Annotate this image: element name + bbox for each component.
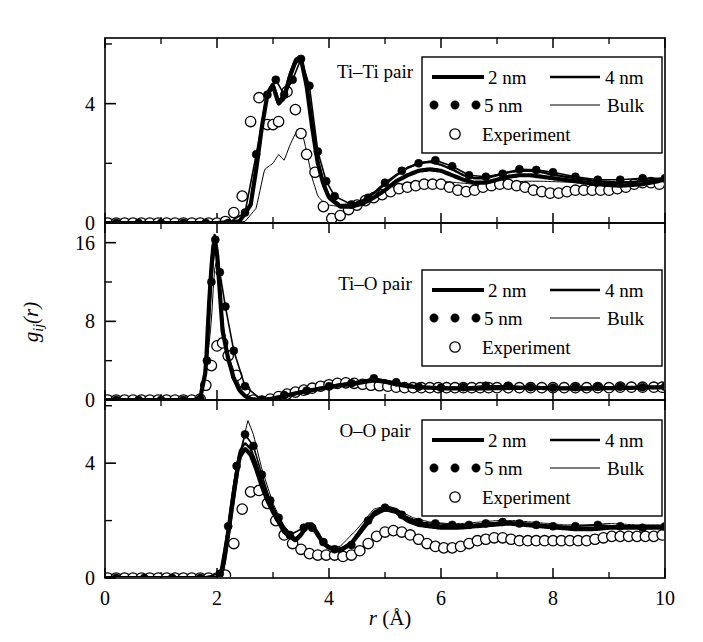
series-5nm-marker: [249, 442, 257, 450]
series-5nm-marker: [571, 173, 579, 181]
legend-box: 2 nm4 nm5 nmBulkExperiment: [422, 420, 662, 516]
series-5nm-marker: [216, 570, 224, 578]
series-5nm-marker: [241, 382, 249, 390]
ytick-label: 0: [85, 389, 95, 411]
legend-label-bulk: Bulk: [607, 95, 644, 116]
legend-label-5nm: 5 nm: [484, 95, 523, 116]
series-5nm-marker: [571, 522, 579, 530]
series-5nm-marker: [594, 521, 602, 529]
legend-label-4nm: 4 nm: [605, 280, 644, 301]
series-5nm-marker: [216, 268, 224, 276]
series-5nm-marker: [437, 384, 445, 392]
series-5nm-marker: [594, 176, 602, 184]
legend-label-2nm: 2 nm: [488, 430, 527, 451]
svg-text:gij(r): gij(r): [19, 302, 46, 342]
series-5nm-marker: [616, 383, 624, 391]
legend-dot-5nm-2: [472, 464, 480, 472]
series-5nm-marker: [459, 383, 467, 391]
series-5nm-marker: [224, 522, 232, 530]
series-5nm-marker: [532, 521, 540, 529]
series-5nm-marker: [431, 156, 439, 164]
legend-label-4nm: 4 nm: [605, 430, 644, 451]
series-5nm-marker: [203, 357, 211, 365]
series-5nm-marker: [448, 162, 456, 170]
legend-label-experiment: Experiment: [482, 337, 571, 358]
legend-box: 2 nm4 nm5 nmBulkExperiment: [422, 270, 662, 366]
series-5nm-marker: [482, 382, 490, 390]
series-5nm-marker: [398, 511, 406, 519]
y-axis-label: gij(r): [19, 302, 46, 342]
series-5nm-marker: [347, 201, 355, 209]
legend-label-4nm: 4 nm: [605, 67, 644, 88]
series-5nm-marker: [297, 55, 305, 63]
series-5nm-marker: [415, 383, 423, 391]
series-5nm-marker: [527, 383, 535, 391]
legend-circle-experiment: [450, 342, 460, 352]
legend-dot-5nm-1: [451, 101, 459, 109]
legend-dot-5nm-1: [451, 314, 459, 322]
legend-label-experiment: Experiment: [482, 487, 571, 508]
legend-label-2nm: 2 nm: [488, 280, 527, 301]
experiment-marker: [355, 546, 365, 556]
experiment-marker: [245, 116, 255, 126]
x-axis-label: r (Å): [369, 606, 412, 630]
series-5nm-marker: [196, 395, 204, 403]
series-5nm-marker: [347, 379, 355, 387]
series-5nm-marker: [549, 384, 557, 392]
legend-circle-experiment: [450, 129, 460, 139]
series-5nm-marker: [266, 496, 274, 504]
series-5nm-marker: [504, 382, 512, 390]
xtick-label: 6: [436, 587, 446, 609]
legend-label-bulk: Bulk: [607, 458, 644, 479]
panel-title-o-o: O–O pair: [339, 420, 411, 441]
series-5nm-marker: [303, 387, 311, 395]
xtick-label: 4: [324, 587, 334, 609]
experiment-marker: [290, 104, 300, 114]
series-5nm-marker: [465, 171, 473, 179]
series-5nm-marker: [515, 165, 523, 173]
legend-dot-5nm-0: [430, 314, 438, 322]
experiment-marker: [301, 149, 311, 159]
series-5nm-marker: [398, 167, 406, 175]
series-5nm-marker: [252, 150, 260, 158]
series-5nm-marker: [381, 179, 389, 187]
series-5nm-marker: [482, 173, 490, 181]
series-5nm-marker: [594, 383, 602, 391]
legend-dot-5nm-0: [430, 464, 438, 472]
series-5nm-marker: [305, 82, 313, 90]
series-5nm-marker: [448, 521, 456, 529]
series-5nm-marker: [381, 504, 389, 512]
series-5nm-marker: [241, 209, 249, 217]
series-5nm-marker: [639, 383, 647, 391]
series-5nm-marker: [639, 174, 647, 182]
series-5nm-marker: [286, 531, 294, 539]
pair-distribution-figure: 040816040246810Ti–Ti pairTi–O pairO–O pa…: [0, 0, 703, 642]
legend-box: 2 nm4 nm5 nmBulkExperiment: [422, 57, 662, 153]
series-5nm-marker: [314, 147, 322, 155]
series-5nm-marker: [499, 518, 507, 526]
experiment-marker: [237, 504, 247, 514]
experiment-marker: [237, 191, 247, 201]
panel-title-ti-ti: Ti–Ti pair: [337, 61, 414, 82]
legend-dot-5nm-2: [472, 101, 480, 109]
series-5nm-marker: [549, 522, 557, 530]
legend-dot-5nm-2: [472, 314, 480, 322]
series-5nm-marker: [289, 76, 297, 84]
panel-title-ti-o: Ti–O pair: [338, 273, 412, 294]
legend-circle-experiment: [450, 492, 460, 502]
ytick-label: 4: [85, 452, 95, 474]
series-5nm-marker: [280, 391, 288, 399]
series-5nm-marker: [233, 462, 241, 470]
series-5nm-marker: [308, 524, 316, 532]
series-5nm-marker: [331, 545, 339, 553]
series-5nm-marker: [549, 168, 557, 176]
series-5nm-marker: [211, 236, 219, 244]
series-5nm-marker: [431, 519, 439, 527]
series-5nm-marker: [571, 383, 579, 391]
experiment-marker: [363, 538, 373, 548]
series-5nm-marker: [325, 382, 333, 390]
legend-label-5nm: 5 nm: [484, 308, 523, 329]
series-5nm-marker: [280, 91, 288, 99]
figure-container: 040816040246810Ti–Ti pairTi–O pairO–O pa…: [0, 0, 703, 642]
experiment-marker: [296, 128, 306, 138]
